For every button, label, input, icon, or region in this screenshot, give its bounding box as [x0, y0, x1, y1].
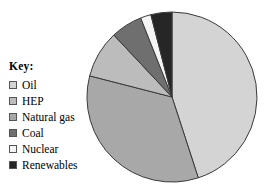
- legend-item: Renewables: [9, 157, 105, 173]
- legend-title: Key:: [9, 60, 105, 72]
- legend-item: Coal: [9, 125, 105, 141]
- legend-item-label: Renewables: [22, 159, 78, 172]
- legend-swatch-natural-gas: [9, 113, 17, 121]
- chart-legend: Key: OilHEPNatural gasCoalNuclearRenewab…: [9, 60, 105, 173]
- pie-slice-group: [87, 12, 257, 182]
- legend-item-label: Nuclear: [22, 143, 58, 156]
- legend-item: Natural gas: [9, 109, 105, 125]
- legend-item: Oil: [9, 77, 105, 93]
- legend-item-list: OilHEPNatural gasCoalNuclearRenewables: [9, 77, 105, 173]
- legend-item-label: Coal: [22, 127, 44, 140]
- legend-item: HEP: [9, 93, 105, 109]
- legend-swatch-renewables: [9, 161, 17, 169]
- legend-item-label: HEP: [22, 95, 44, 108]
- legend-swatch-hep: [9, 97, 17, 105]
- legend-swatch-coal: [9, 129, 17, 137]
- legend-item-label: Oil: [22, 79, 37, 92]
- pie-chart-figure: Key: OilHEPNatural gasCoalNuclearRenewab…: [0, 0, 265, 195]
- legend-item-label: Natural gas: [22, 111, 75, 124]
- legend-item: Nuclear: [9, 141, 105, 157]
- legend-swatch-oil: [9, 81, 17, 89]
- legend-swatch-nuclear: [9, 145, 17, 153]
